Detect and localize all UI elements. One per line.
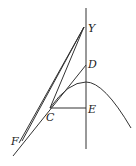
label-F: F bbox=[10, 135, 19, 148]
label-Y: Y bbox=[88, 22, 97, 35]
line-YC bbox=[50, 27, 84, 108]
label-C: C bbox=[46, 111, 55, 124]
label-D: D bbox=[87, 58, 97, 71]
geometry-diagram: Y D E C F bbox=[0, 0, 136, 166]
label-E: E bbox=[87, 103, 96, 116]
